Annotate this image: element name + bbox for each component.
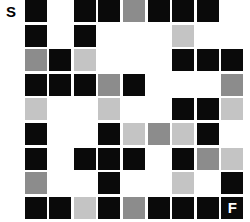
maze-cell-black bbox=[98, 172, 120, 194]
maze-cell-empty bbox=[123, 25, 145, 47]
maze-cell-empty bbox=[197, 74, 219, 96]
maze-cell-black bbox=[98, 197, 120, 219]
maze-cell-lgray bbox=[25, 98, 47, 120]
maze-cell-black bbox=[123, 148, 145, 170]
maze-cell-empty bbox=[123, 172, 145, 194]
maze-cell-empty bbox=[148, 98, 170, 120]
maze-cell-gray bbox=[148, 123, 170, 145]
maze-cell-empty bbox=[0, 25, 22, 47]
maze-cell-empty bbox=[49, 123, 71, 145]
maze-cell-black bbox=[74, 25, 96, 47]
maze-cell-gray bbox=[197, 148, 219, 170]
maze-cell-empty bbox=[49, 0, 71, 22]
maze-cell-empty bbox=[0, 49, 22, 71]
maze-cell-empty bbox=[0, 172, 22, 194]
maze-cell-empty bbox=[221, 123, 243, 145]
maze-cell-black bbox=[197, 49, 219, 71]
maze-cell-black bbox=[25, 25, 47, 47]
maze-cell-empty bbox=[148, 148, 170, 170]
maze-cell-black bbox=[172, 0, 194, 22]
finish-label: F bbox=[228, 200, 237, 215]
maze-cell-empty bbox=[221, 25, 243, 47]
maze-cell-lgray bbox=[172, 25, 194, 47]
maze-cell-black bbox=[25, 123, 47, 145]
maze-cell-lgray bbox=[172, 172, 194, 194]
maze-cell-empty bbox=[49, 98, 71, 120]
maze-cell-gray bbox=[25, 49, 47, 71]
maze-cell-lgray bbox=[74, 197, 96, 219]
maze-cell-black bbox=[25, 0, 47, 22]
maze-cell-empty bbox=[221, 0, 243, 22]
maze-cell-empty bbox=[74, 123, 96, 145]
maze-cell-black bbox=[49, 49, 71, 71]
maze-cell-empty bbox=[0, 148, 22, 170]
maze-cell-empty bbox=[74, 172, 96, 194]
maze-cell-black bbox=[98, 123, 120, 145]
maze-cell-black bbox=[74, 74, 96, 96]
maze-cell-black bbox=[221, 49, 243, 71]
maze-cell-empty bbox=[123, 49, 145, 71]
maze-cell-black bbox=[25, 148, 47, 170]
maze-cell-black bbox=[49, 197, 71, 219]
maze-cell-empty bbox=[148, 49, 170, 71]
maze-cell-black bbox=[74, 0, 96, 22]
maze-cell-empty bbox=[148, 74, 170, 96]
start-label: S bbox=[6, 4, 16, 19]
maze-cell-empty bbox=[123, 98, 145, 120]
maze-cell-empty bbox=[74, 98, 96, 120]
maze-cell-empty bbox=[0, 123, 22, 145]
maze-cell-black bbox=[172, 98, 194, 120]
maze-cell-black bbox=[197, 123, 219, 145]
maze-cell-lgray bbox=[74, 49, 96, 71]
maze-cell-black bbox=[172, 49, 194, 71]
maze-cell-black bbox=[197, 98, 219, 120]
start-marker-cell: S bbox=[0, 0, 22, 22]
maze-cell-black bbox=[74, 148, 96, 170]
maze-cell-black bbox=[148, 0, 170, 22]
maze-cell-empty bbox=[98, 25, 120, 47]
maze-grid: SF bbox=[0, 0, 250, 222]
maze-cell-empty bbox=[148, 172, 170, 194]
maze-cell-gray bbox=[98, 74, 120, 96]
maze-cell-black bbox=[49, 74, 71, 96]
maze-cell-empty bbox=[172, 74, 194, 96]
maze-cell-black bbox=[25, 197, 47, 219]
maze-cell-black bbox=[148, 197, 170, 219]
maze-cell-empty bbox=[49, 25, 71, 47]
maze-cell-black bbox=[123, 74, 145, 96]
maze-cell-empty bbox=[197, 25, 219, 47]
maze-cell-empty bbox=[98, 49, 120, 71]
maze-cell-empty bbox=[49, 148, 71, 170]
maze-cell-empty bbox=[49, 172, 71, 194]
maze-cell-lgray bbox=[98, 98, 120, 120]
maze-cell-black bbox=[98, 148, 120, 170]
maze-cell-lgray bbox=[221, 148, 243, 170]
maze-cell-gray bbox=[123, 0, 145, 22]
maze-cell-black bbox=[197, 197, 219, 219]
maze-cell-empty bbox=[148, 25, 170, 47]
maze-cell-gray bbox=[25, 172, 47, 194]
maze-cell-black bbox=[172, 148, 194, 170]
maze-cell-black bbox=[172, 197, 194, 219]
maze-cell-empty bbox=[0, 74, 22, 96]
maze-cell-black bbox=[98, 0, 120, 22]
maze-cell-gray bbox=[221, 74, 243, 96]
maze-cell-lgray bbox=[172, 123, 194, 145]
maze-cell-black bbox=[197, 0, 219, 22]
finish-marker-cell: F bbox=[221, 197, 243, 219]
maze-cell-gray bbox=[123, 197, 145, 219]
maze-cell-empty bbox=[0, 98, 22, 120]
maze-cell-empty bbox=[0, 197, 22, 219]
maze-cell-empty bbox=[197, 172, 219, 194]
maze-cell-black bbox=[221, 172, 243, 194]
maze-cell-lgray bbox=[123, 123, 145, 145]
maze-cell-lgray bbox=[221, 98, 243, 120]
maze-cell-black bbox=[25, 74, 47, 96]
